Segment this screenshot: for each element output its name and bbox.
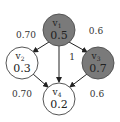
edge-label-v1-v3: 0.6 [89, 26, 104, 36]
node-value: 0.5 [50, 29, 68, 42]
node-value: 0.3 [13, 62, 31, 75]
graph-canvas: 0.70 0.6 1 0.70 0.6 v1 0.5 v2 0.3 v3 0.7… [0, 0, 120, 122]
edge-v1-v2 [33, 42, 49, 52]
node-v4: v4 0.2 [43, 83, 75, 115]
edge-label-v2-v4: 0.70 [12, 89, 32, 99]
node-v2: v2 0.3 [6, 47, 38, 79]
edge-v2-v4 [33, 74, 48, 87]
edge-v1-v3 [69, 42, 87, 52]
node-value: 0.7 [89, 62, 107, 75]
node-value: 0.2 [50, 98, 68, 111]
edge-label-v3-v4: 0.6 [90, 89, 105, 99]
edge-label-v1-v2: 0.70 [16, 30, 36, 40]
node-v1: v1 0.5 [43, 14, 75, 46]
node-v3: v3 0.7 [82, 47, 114, 79]
edge-v3-v4 [70, 74, 87, 87]
edge-label-v1-v4: 1 [69, 52, 75, 62]
